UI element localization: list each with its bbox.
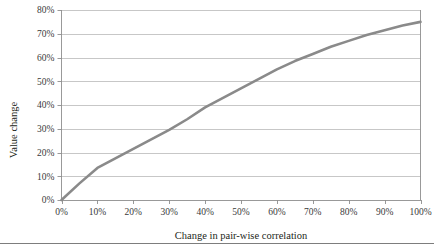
y-tick-label-70: 70% [37, 29, 55, 39]
x-tick-label-10: 10% [89, 207, 107, 217]
y-tick-label-20: 20% [37, 148, 55, 158]
x-tick-label-60: 60% [268, 207, 286, 217]
y-axis-title: Value change [8, 102, 19, 159]
y-tick-label-50: 50% [37, 77, 55, 87]
x-tick-label-80: 80% [340, 207, 358, 217]
y-axis-tick-labels: 0%10%20%30%40%50%60%70%80% [37, 5, 55, 205]
chart-figure: 0%10%20%30%40%50%60%70%80% 0%10%20%30%40… [0, 0, 434, 245]
x-tick-label-20: 20% [125, 207, 143, 217]
x-tick-label-70: 70% [304, 207, 322, 217]
x-tick-label-50: 50% [232, 207, 250, 217]
x-tick-label-100: 100% [409, 207, 431, 217]
y-tick-label-0: 0% [42, 195, 55, 205]
y-tick-label-40: 40% [37, 100, 55, 110]
x-axis-title: Change in pair-wise correlation [175, 230, 308, 241]
y-tick-label-30: 30% [37, 124, 55, 134]
x-tick-label-0: 0% [55, 207, 68, 217]
x-tick-label-30: 30% [160, 207, 178, 217]
x-tick-label-90: 90% [376, 207, 394, 217]
y-tick-label-60: 60% [37, 53, 55, 63]
y-tick-label-80: 80% [37, 5, 55, 15]
x-tick-label-40: 40% [196, 207, 214, 217]
y-tick-label-10: 10% [37, 172, 55, 182]
